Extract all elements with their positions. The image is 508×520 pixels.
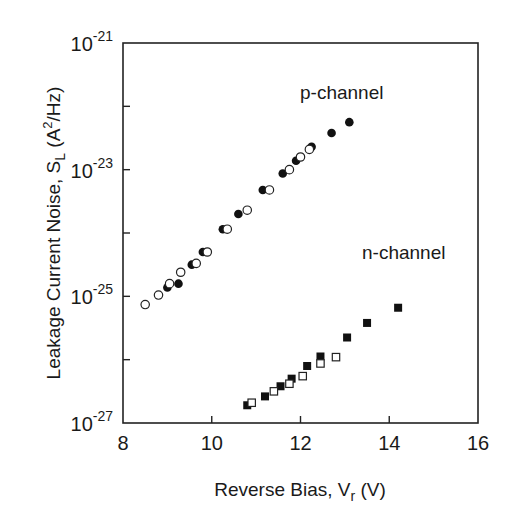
data-point <box>223 225 231 233</box>
x-tick-label: 10 <box>201 432 223 454</box>
data-point <box>234 210 243 219</box>
y-tick-label: 10-23 <box>71 155 114 182</box>
axis-ticks <box>123 106 389 423</box>
data-point <box>299 372 306 379</box>
p-channel-label: p-channel <box>300 82 383 103</box>
data-point <box>270 388 277 395</box>
data-point <box>296 153 304 161</box>
y-tick-labels: 10-2710-2510-2310-21 <box>71 28 114 435</box>
data-point <box>141 300 149 308</box>
data-point <box>176 268 184 276</box>
data-point <box>243 206 251 214</box>
x-tick-label: 14 <box>378 432 400 454</box>
data-point <box>363 319 371 327</box>
data-point <box>192 259 200 267</box>
y-tick-label: 10-25 <box>71 281 114 308</box>
data-point <box>285 165 293 173</box>
data-point <box>203 248 211 256</box>
data-point <box>332 353 339 360</box>
x-tick-label: 16 <box>467 432 489 454</box>
data-point <box>394 304 402 312</box>
x-tick-label: 12 <box>289 432 311 454</box>
chart: 810121416 10-2710-2510-2310-21 p-channel… <box>0 0 508 520</box>
data-point <box>345 118 354 127</box>
data-point <box>248 399 255 406</box>
y-tick-label: 10-27 <box>71 408 114 435</box>
x-tick-labels: 810121416 <box>117 432 489 454</box>
data-point <box>154 291 162 299</box>
data-point <box>286 380 293 387</box>
data-point <box>265 186 273 194</box>
data-point <box>327 129 336 138</box>
data-point <box>174 279 183 288</box>
data-points <box>141 118 402 409</box>
data-point <box>305 145 313 153</box>
data-point <box>317 360 324 367</box>
data-point <box>343 334 351 342</box>
n-channel-label: n-channel <box>362 242 445 263</box>
data-point <box>165 279 173 287</box>
y-axis-title: Leakage Current Noise, SL (A2/Hz) <box>40 87 68 380</box>
x-tick-label: 8 <box>117 432 128 454</box>
x-axis-title: Reverse Bias, Vr (V) <box>214 479 386 504</box>
y-tick-label: 10-21 <box>71 28 114 55</box>
data-point <box>303 362 311 370</box>
data-point <box>261 392 269 400</box>
